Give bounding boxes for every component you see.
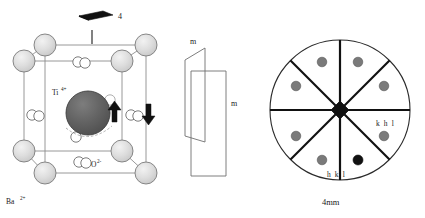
pole-marker bbox=[379, 131, 389, 141]
titanium-label: Ti bbox=[52, 88, 58, 97]
barium-sphere bbox=[111, 50, 133, 72]
barium-sphere bbox=[135, 34, 157, 56]
barium-sphere bbox=[135, 162, 157, 184]
pole-marker-highlighted bbox=[353, 155, 363, 165]
crystallography-figure: 4 bbox=[0, 0, 425, 218]
hkl-index-label: h k l bbox=[327, 170, 346, 179]
khl-index-label: k h l bbox=[376, 119, 395, 128]
mirror-plane-upper: m bbox=[185, 37, 205, 142]
oxygen-atom bbox=[73, 57, 90, 68]
barium-sphere bbox=[13, 50, 35, 72]
titanium-sphere bbox=[66, 91, 110, 135]
pole-marker bbox=[317, 155, 327, 165]
pole-marker bbox=[291, 81, 301, 91]
oxygen-atom bbox=[27, 110, 44, 121]
oxygen-atom-labelled bbox=[74, 157, 91, 168]
barium-sphere bbox=[111, 140, 133, 162]
barium-sphere bbox=[34, 162, 56, 184]
mirror-plane-lower-label: m bbox=[231, 99, 238, 108]
barium-label-group: Ba 2+ bbox=[6, 195, 26, 206]
pole-marker bbox=[379, 81, 389, 91]
titanium-label-superscript: 4+ bbox=[61, 86, 67, 92]
mirror-plane-upper-label: m bbox=[190, 37, 197, 46]
unit-cell-panel: 4 bbox=[6, 11, 238, 206]
titanium-label-group: Ti 4+ bbox=[52, 86, 67, 97]
oxygen-label-superscript: 2- bbox=[97, 158, 102, 164]
pole-marker bbox=[353, 57, 363, 67]
barium-sphere bbox=[34, 34, 56, 56]
mirror-plane-lower: m bbox=[191, 71, 238, 176]
displacement-arrow-down bbox=[142, 104, 155, 125]
barium-label: Ba bbox=[6, 197, 15, 206]
figure-canvas: 4 bbox=[0, 0, 425, 218]
four-fold-axis-label: 4 bbox=[118, 12, 122, 21]
oxygen-atom bbox=[126, 110, 143, 121]
barium-sphere bbox=[13, 140, 35, 162]
barium-label-superscript: 2+ bbox=[20, 195, 26, 201]
oxygen-label-group: O 2- bbox=[91, 158, 102, 169]
pole-marker bbox=[317, 57, 327, 67]
stereogram-panel: k h l h k l 4mm bbox=[270, 40, 410, 207]
pole-marker bbox=[291, 131, 301, 141]
point-group-label: 4mm bbox=[322, 197, 340, 207]
four-fold-axis-symbol-group: 4 bbox=[79, 11, 122, 44]
